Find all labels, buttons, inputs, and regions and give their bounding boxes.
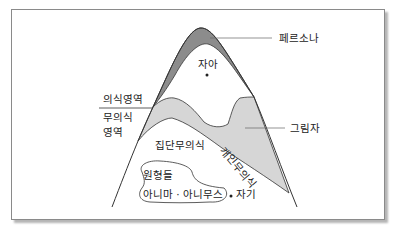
- unconscious-area-label-2: 영역: [103, 127, 123, 138]
- ego-label: 자아: [198, 59, 218, 70]
- anima-animus-label: 아니마 · 아니무스: [143, 189, 223, 200]
- shadow-label: 그림자: [290, 123, 320, 134]
- unconscious-area-label-1: 무의식: [103, 112, 133, 123]
- archetypes-label: 원형들: [143, 170, 173, 181]
- self-label: 자기: [236, 189, 256, 200]
- ego-dot: [206, 74, 209, 77]
- collective-unconscious-label: 집단무의식: [155, 140, 205, 151]
- conscious-area-label: 의식영역: [103, 94, 143, 105]
- persona-label: 페르소나: [279, 33, 319, 44]
- psyche-structure-diagram: [0, 0, 396, 239]
- self-dot: [230, 195, 233, 198]
- psyche-outline: [112, 28, 297, 207]
